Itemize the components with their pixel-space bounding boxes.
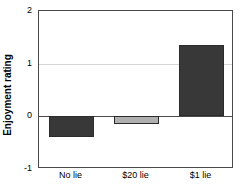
bar-1-lie bbox=[179, 45, 225, 116]
bar-no-lie bbox=[49, 116, 95, 137]
y-axis-tick-labels: 210-1 bbox=[0, 10, 38, 168]
x-tick-label: No lie bbox=[59, 170, 82, 180]
y-tick-label: 2 bbox=[27, 5, 32, 15]
y-tick-label: 0 bbox=[27, 110, 32, 120]
y-tick-label: -1 bbox=[24, 163, 32, 173]
y-tick-label: 1 bbox=[27, 58, 32, 68]
bar-chart-figure: Enjoyment rating 210-1 No lie$20 lie$1 l… bbox=[0, 0, 242, 189]
x-tick-label: $1 lie bbox=[190, 170, 212, 180]
bar-series bbox=[39, 11, 232, 167]
x-tick-label: $20 lie bbox=[122, 170, 149, 180]
bar-20-lie bbox=[114, 116, 160, 124]
x-axis-tick-labels: No lie$20 lie$1 lie bbox=[38, 170, 233, 186]
plot-area bbox=[38, 10, 233, 168]
